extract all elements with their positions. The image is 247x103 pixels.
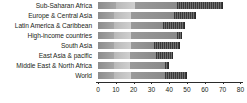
bar-segment-2 xyxy=(114,32,132,39)
x-tick-40 xyxy=(169,82,170,84)
bar-segment-1 xyxy=(98,2,116,9)
plot-area xyxy=(98,0,242,82)
bar-segment-3 xyxy=(131,42,154,49)
bar-segment-4 xyxy=(174,12,195,19)
bar-segment-1 xyxy=(98,62,114,69)
x-tick-label-40: 40 xyxy=(161,86,177,94)
bar-segment-3 xyxy=(131,72,164,79)
bar-segment-3 xyxy=(131,32,177,39)
bar-segment-4 xyxy=(156,52,172,59)
x-tick-label-20: 20 xyxy=(126,86,142,94)
bar-europe-central-asia xyxy=(98,12,196,19)
x-tick-10 xyxy=(116,82,117,84)
category-label-world: World xyxy=(0,72,92,79)
chart-container: Sub-Saharan Africa Europe & Central Asia… xyxy=(0,0,247,103)
bar-segment-4 xyxy=(177,32,181,39)
bar-segment-2 xyxy=(114,12,132,19)
bar-sub-saharan-africa xyxy=(98,2,223,9)
category-label-sub-saharan-africa: Sub-Saharan Africa xyxy=(0,2,92,9)
bar-high-income-countries xyxy=(98,32,182,39)
bar-south-asia xyxy=(98,42,180,49)
bar-segment-4 xyxy=(177,2,221,9)
x-tick-label-30: 30 xyxy=(143,86,159,94)
bar-segment-3 xyxy=(135,2,177,9)
bar-segment-1 xyxy=(98,72,114,79)
category-label-middle-east-north-africa: Middle East & North Africa xyxy=(0,62,92,69)
bar-segment-1 xyxy=(98,12,114,19)
x-tick-label-50: 50 xyxy=(179,86,195,94)
x-tick-30 xyxy=(151,82,152,84)
x-tick-label-80: 80 xyxy=(232,86,247,94)
x-tick-50 xyxy=(187,82,188,84)
bar-segment-2 xyxy=(114,62,130,69)
category-label-high-income-countries: High-income countries xyxy=(0,32,92,39)
bar-segment-1 xyxy=(98,52,114,59)
x-tick-70 xyxy=(223,82,224,84)
bar-latin-america-caribbean xyxy=(98,22,185,29)
category-label-europe-central-asia: Europe & Central Asia xyxy=(0,12,92,19)
bar-segment-2 xyxy=(116,2,135,9)
x-tick-0 xyxy=(98,82,99,84)
bar-segment-3 xyxy=(131,22,163,29)
bar-segment-1 xyxy=(98,32,114,39)
bar-world xyxy=(98,72,187,79)
bar-segment-4 xyxy=(165,62,169,69)
bar-segment-2 xyxy=(114,72,132,79)
bar-segment-2 xyxy=(114,42,132,49)
bar-segment-4 xyxy=(165,72,186,79)
category-label-east-asia-pacific: East Asia & pacific xyxy=(0,52,92,59)
x-tick-label-60: 60 xyxy=(197,86,213,94)
category-label-latin-america-caribbean: Latin America & Caribbean xyxy=(0,22,92,29)
bar-segment-3 xyxy=(131,12,173,19)
bar-segment-3 xyxy=(130,62,165,69)
bar-segment-2 xyxy=(114,22,132,29)
x-tick-60 xyxy=(205,82,206,84)
category-label-south-asia: South Asia xyxy=(0,42,92,49)
bar-segment-4 xyxy=(163,22,184,29)
x-tick-80 xyxy=(240,82,241,84)
category-axis-labels: Sub-Saharan Africa Europe & Central Asia… xyxy=(0,0,94,82)
bar-middle-east-north-africa xyxy=(98,62,169,69)
bar-east-asia-pacific xyxy=(98,52,173,59)
bar-segment-1 xyxy=(98,22,114,29)
bar-segment-3 xyxy=(130,52,156,59)
x-tick-label-70: 70 xyxy=(215,86,231,94)
bar-segment-4 xyxy=(154,42,179,49)
bar-segment-1 xyxy=(98,42,114,49)
x-tick-label-0: 0 xyxy=(90,86,106,94)
bar-segment-2 xyxy=(114,52,130,59)
x-tick-20 xyxy=(134,82,135,84)
x-tick-label-10: 10 xyxy=(108,86,124,94)
